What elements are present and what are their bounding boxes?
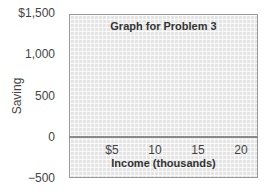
y-tick-1500: $1,500	[18, 6, 55, 20]
x-tick-20: 20	[234, 143, 247, 157]
x-axis-label: Income (thousands)	[69, 157, 258, 169]
y-tick-neg500: −500	[28, 171, 55, 185]
x-tick-5: $5	[105, 143, 118, 157]
plot-area	[69, 14, 258, 178]
y-tick-500: 500	[35, 89, 55, 103]
y-tick-0: 0	[48, 130, 55, 144]
chart-title: Graph for Problem 3	[69, 20, 258, 32]
x-tick-15: 15	[191, 143, 204, 157]
y-tick-1000: 1,000	[25, 47, 55, 61]
x-tick-10: 10	[148, 143, 161, 157]
zero-line	[69, 136, 258, 138]
y-axis-label: Saving	[10, 78, 24, 115]
